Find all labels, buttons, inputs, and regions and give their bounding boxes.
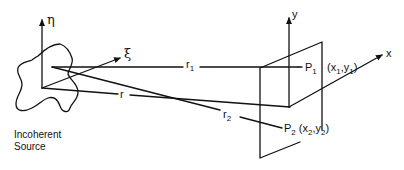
eta-label: η	[47, 12, 55, 27]
p1-coords: (x1,y1)	[327, 61, 357, 76]
r1-label: r1	[186, 58, 195, 73]
r2-line-cont	[240, 117, 282, 128]
p1-label: P1	[305, 61, 317, 76]
x-label: x	[386, 47, 392, 59]
y-label: y	[292, 8, 298, 20]
r-line	[42, 88, 118, 94]
diagram-canvas: η ξ r r1 r2 y x P1 (x1,y1) P2 (x2,y2) In…	[0, 0, 404, 170]
r-label: r	[120, 88, 124, 100]
xi-label: ξ	[124, 46, 131, 61]
source-caption-line2: Source	[14, 141, 46, 152]
r-line-cont	[130, 95, 290, 107]
r2-label: r2	[223, 108, 232, 123]
xi-axis	[42, 58, 120, 88]
observation-plane	[260, 42, 322, 158]
source-caption-line1: Incoherent	[14, 129, 61, 140]
